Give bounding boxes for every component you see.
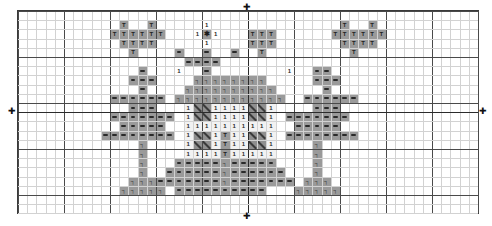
stitch-cell-corner[interactable]: ┐ (193, 75, 202, 84)
stitch-cell-corner[interactable]: ┐ (312, 140, 321, 149)
stitch-cell-dash[interactable] (331, 94, 340, 103)
stitch-cell-corner[interactable]: ┐ (312, 158, 321, 167)
stitch-cell-bslash[interactable] (193, 103, 202, 112)
stitch-cell-corner[interactable]: ┐ (248, 94, 257, 103)
stitch-cell-dash[interactable] (193, 167, 202, 176)
stitch-cell-dash[interactable] (165, 112, 174, 121)
stitch-cell-one[interactable]: 1 (239, 103, 248, 112)
stitch-cell-one[interactable]: 1 (266, 149, 275, 158)
stitch-cell-one[interactable]: 1 (220, 121, 229, 130)
stitch-cell-onep[interactable]: 1 (174, 66, 183, 75)
stitch-cell-one[interactable]: 1 (202, 149, 211, 158)
stitch-cell-dash[interactable] (211, 57, 220, 66)
stitch-cell-dash[interactable] (312, 112, 321, 121)
stitch-cell-corner[interactable]: ┐ (248, 75, 257, 84)
stitch-cell-one[interactable]: 1 (239, 149, 248, 158)
stitch-cell-corner[interactable]: ┐ (312, 186, 321, 195)
stitch-cell-one[interactable]: 1 (266, 103, 275, 112)
stitch-cell-dash[interactable] (294, 121, 303, 130)
stitch-cell-corner[interactable]: ┐ (266, 94, 275, 103)
stitch-cell-tee[interactable]: T (156, 29, 165, 38)
stitch-cell-dash[interactable] (202, 57, 211, 66)
stitch-cell-corner[interactable]: ┐ (220, 167, 229, 176)
stitch-cell-dash[interactable] (257, 186, 266, 195)
stitch-cell-corner[interactable]: ┐ (211, 75, 220, 84)
stitch-cell-corner[interactable]: ┐ (239, 75, 248, 84)
stitch-cell-one[interactable]: 1 (239, 140, 248, 149)
stitch-cell-dash[interactable] (340, 94, 349, 103)
stitch-cell-tee[interactable]: T (128, 48, 137, 57)
stitch-cell-dash[interactable] (174, 158, 183, 167)
stitch-cell-corner[interactable]: ┐ (128, 186, 137, 195)
stitch-cell-one[interactable]: 1 (193, 149, 202, 158)
stitch-cell-tee[interactable]: T (110, 29, 119, 38)
stitch-cell-dash[interactable] (248, 158, 257, 167)
stitch-cell-dash[interactable] (147, 103, 156, 112)
stitch-cell-dash[interactable] (156, 94, 165, 103)
stitch-cell-one[interactable]: 1 (239, 112, 248, 121)
stitch-cell-dash[interactable] (202, 186, 211, 195)
stitch-cell-dash[interactable] (340, 112, 349, 121)
stitch-cell-onep[interactable]: 1 (285, 66, 294, 75)
stitch-cell-dash[interactable] (128, 103, 137, 112)
stitch-cell-corner[interactable]: ┐ (257, 75, 266, 84)
stitch-cell-corner[interactable]: ┐ (211, 94, 220, 103)
stitch-cell-dash[interactable] (174, 167, 183, 176)
stitch-cell-tee[interactable]: T (119, 20, 128, 29)
stitch-cell-dash[interactable] (119, 112, 128, 121)
stitch-cell-dash[interactable] (248, 167, 257, 176)
stitch-cell-tee[interactable]: T (147, 20, 156, 29)
stitch-cell-bslash[interactable] (202, 140, 211, 149)
stitch-cell-dash[interactable] (128, 94, 137, 103)
stitch-cell-dash[interactable] (349, 94, 358, 103)
stitch-cell-dash[interactable] (303, 112, 312, 121)
stitch-cell-one[interactable]: 1 (211, 149, 220, 158)
stitch-cell-bslash[interactable] (257, 140, 266, 149)
stitch-cell-dash[interactable] (147, 75, 156, 84)
stitch-cell-bslash[interactable] (257, 103, 266, 112)
stitch-cell-onep[interactable]: 1 (211, 29, 220, 38)
stitch-cell-dash[interactable] (147, 94, 156, 103)
stitch-cell-tee[interactable]: T (128, 29, 137, 38)
stitch-cell-dash[interactable] (193, 158, 202, 167)
stitch-cell-dash[interactable] (303, 94, 312, 103)
stitch-cell-dash[interactable] (331, 75, 340, 84)
stitch-cell-corner[interactable]: ┐ (303, 186, 312, 195)
stitch-cell-tee[interactable]: T (349, 29, 358, 38)
stitch-cell-tee[interactable]: T (257, 29, 266, 38)
stitch-cell-bslash[interactable] (202, 103, 211, 112)
stitch-cell-dash[interactable] (174, 186, 183, 195)
stitch-cell-corner[interactable]: ┐ (239, 94, 248, 103)
stitch-cell-dash[interactable] (165, 167, 174, 176)
stitch-cell-corner[interactable]: ┐ (202, 94, 211, 103)
stitch-cell-tee[interactable]: T (266, 29, 275, 38)
stitch-cell-dash[interactable] (128, 112, 137, 121)
stitch-cell-dash[interactable] (312, 66, 321, 75)
stitch-cell-bslash[interactable] (193, 112, 202, 121)
stitch-cell-one[interactable]: 1 (257, 121, 266, 130)
stitch-cell-dash[interactable] (220, 186, 229, 195)
stitch-cell-dash[interactable] (303, 121, 312, 130)
stitch-cell-corner[interactable]: ┐ (119, 186, 128, 195)
stitch-cell-one[interactable]: 1 (211, 112, 220, 121)
stitch-cell-bslash[interactable] (248, 112, 257, 121)
stitch-cell-corner[interactable]: ┐ (156, 186, 165, 195)
stitch-cell-dash[interactable] (202, 66, 211, 75)
pattern-grid[interactable]: TT1TTTTTTTT1✱1TTTTTTTTTTTTT1TTTTTTTTTT11… (17, 10, 479, 214)
stitch-cell-dash[interactable] (239, 167, 248, 176)
stitch-cell-dash[interactable] (257, 158, 266, 167)
stitch-cell-bslash[interactable] (193, 140, 202, 149)
stitch-cell-one[interactable]: 1 (211, 140, 220, 149)
stitch-cell-tee[interactable]: T (119, 29, 128, 38)
stitch-cell-bslash[interactable] (248, 140, 257, 149)
stitch-cell-one[interactable]: 1 (211, 121, 220, 130)
stitch-cell-dash[interactable] (248, 186, 257, 195)
stitch-cell-dash[interactable] (312, 94, 321, 103)
stitch-cell-dash[interactable] (147, 121, 156, 130)
stitch-cell-one[interactable]: 1 (193, 121, 202, 130)
stitch-cell-one[interactable]: 1 (239, 121, 248, 130)
stitch-cell-dash[interactable] (110, 94, 119, 103)
stitch-cell-dash[interactable] (147, 112, 156, 121)
stitch-cell-dash[interactable] (285, 112, 294, 121)
stitch-cell-one[interactable]: 1 (266, 112, 275, 121)
